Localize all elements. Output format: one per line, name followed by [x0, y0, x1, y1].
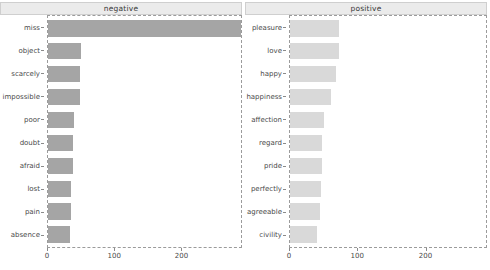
y-tick-mark: [283, 189, 286, 190]
y-tick-mark: [41, 235, 44, 236]
x-tick-label-200: 200: [175, 252, 188, 260]
bar-row: [48, 203, 241, 219]
facet-title-negative: negative: [104, 4, 138, 13]
bar-love: [290, 43, 339, 59]
bar-row: [48, 112, 241, 128]
y-tick-mark: [41, 27, 44, 28]
y-tick-label-miss: miss: [0, 19, 44, 35]
y-tick-label-scarcely: scarcely: [0, 66, 44, 82]
x-tick-mark: [181, 248, 182, 251]
y-tick-label-affection: affection: [245, 112, 286, 128]
y-tick-mark: [41, 50, 44, 51]
bar-row: [48, 89, 241, 105]
facet-title-positive: positive: [350, 4, 381, 13]
bar-row: [48, 135, 241, 151]
bar-affection: [290, 112, 324, 128]
y-tick-label-agreeable: agreeable: [245, 204, 286, 220]
bar-doubt: [48, 135, 73, 151]
plot-panel-negative: [47, 15, 242, 248]
y-tick-label-absence: absence: [0, 227, 44, 243]
bar-row: [290, 43, 486, 59]
x-tick-label-100: 100: [351, 252, 364, 260]
bar-lost: [48, 181, 71, 197]
y-tick-label-poor: poor: [0, 112, 44, 128]
y-tick-label-doubt: doubt: [0, 135, 44, 151]
y-tick-mark: [283, 73, 286, 74]
bar-row: [290, 226, 486, 242]
facet-positive: positive pleasurelovehappyhappinessaffec…: [245, 0, 490, 270]
y-tick-label-civility: civility: [245, 227, 286, 243]
x-tick-mark: [47, 248, 48, 251]
x-axis-positive: 0100200: [289, 248, 487, 270]
y-axis-labels-negative: missobjectscarcelyimpossiblepoordoubtafr…: [0, 15, 44, 248]
bar-row: [290, 181, 486, 197]
bar-perfectly: [290, 181, 321, 197]
bar-scarcely: [48, 66, 80, 82]
bar-miss: [48, 20, 241, 36]
x-tick-label-100: 100: [108, 252, 121, 260]
bar-absence: [48, 226, 70, 242]
facet-negative: negative missobjectscarcelyimpossiblepoo…: [0, 0, 245, 270]
y-tick-label-happy: happy: [245, 66, 286, 82]
bar-row: [290, 66, 486, 82]
y-tick-mark: [283, 50, 286, 51]
y-axis-labels-positive: pleasurelovehappyhappinessaffectionregar…: [245, 15, 286, 248]
bar-row: [48, 66, 241, 82]
bar-row: [290, 112, 486, 128]
bar-poor: [48, 112, 74, 128]
bar-afraid: [48, 158, 73, 174]
bar-row: [290, 89, 486, 105]
y-tick-mark: [283, 27, 286, 28]
y-tick-mark: [283, 143, 286, 144]
bar-series-negative: [48, 16, 241, 247]
y-tick-mark: [283, 212, 286, 213]
y-tick-label-object: object: [0, 42, 44, 58]
y-tick-label-pain: pain: [0, 204, 44, 220]
x-tick-mark: [289, 248, 290, 251]
y-tick-label-love: love: [245, 42, 286, 58]
x-tick-label-0: 0: [45, 252, 49, 260]
x-tick-mark: [357, 248, 358, 251]
y-tick-mark: [283, 166, 286, 167]
y-tick-label-happiness: happiness: [245, 89, 286, 105]
bar-row: [48, 158, 241, 174]
bar-pride: [290, 158, 322, 174]
bar-row: [290, 20, 486, 36]
bar-row: [290, 203, 486, 219]
bar-agreeable: [290, 203, 320, 219]
bar-regard: [290, 135, 322, 151]
y-tick-mark: [283, 96, 286, 97]
bar-impossible: [48, 89, 80, 105]
bar-row: [48, 43, 241, 59]
bar-happy: [290, 66, 336, 82]
y-tick-label-perfectly: perfectly: [245, 181, 286, 197]
y-tick-label-afraid: afraid: [0, 158, 44, 174]
facet-grid: negative missobjectscarcelyimpossiblepoo…: [0, 0, 490, 270]
y-tick-mark: [41, 212, 44, 213]
bar-pleasure: [290, 20, 339, 36]
bar-series-positive: [290, 16, 486, 247]
x-tick-label-0: 0: [287, 252, 291, 260]
y-tick-mark: [41, 166, 44, 167]
y-tick-label-impossible: impossible: [0, 89, 44, 105]
y-tick-label-pride: pride: [245, 158, 286, 174]
bar-pain: [48, 203, 71, 219]
y-tick-mark: [41, 143, 44, 144]
facet-title-strip-negative: negative: [0, 2, 242, 15]
y-tick-mark: [41, 189, 44, 190]
y-tick-label-regard: regard: [245, 135, 286, 151]
x-tick-label-200: 200: [419, 252, 432, 260]
x-axis-negative: 0100200: [47, 248, 242, 270]
y-tick-label-lost: lost: [0, 181, 44, 197]
x-tick-mark: [114, 248, 115, 251]
bar-row: [48, 181, 241, 197]
bar-row: [48, 226, 241, 242]
bar-civility: [290, 226, 317, 242]
bar-row: [290, 158, 486, 174]
y-tick-mark: [41, 96, 44, 97]
bar-row: [290, 135, 486, 151]
y-tick-mark: [41, 73, 44, 74]
y-tick-mark: [41, 119, 44, 120]
bar-row: [48, 20, 241, 36]
plot-panel-positive: [289, 15, 487, 248]
